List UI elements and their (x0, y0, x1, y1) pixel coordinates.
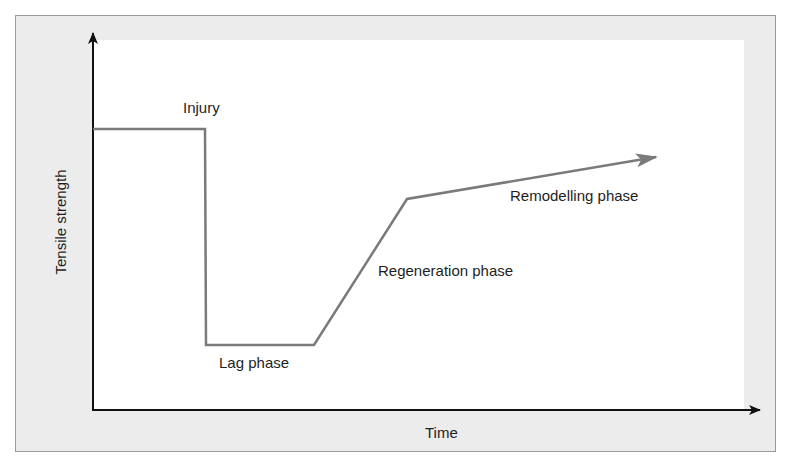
lag-phase-label: Lag phase (219, 355, 289, 370)
diagram-canvas (0, 0, 791, 476)
remodelling-phase-label: Remodelling phase (510, 188, 638, 203)
y-axis-label: Tensile strength (53, 169, 68, 274)
injury-label: Injury (183, 100, 220, 115)
regeneration-phase-label: Regeneration phase (378, 263, 513, 278)
x-axis-label: Time (425, 425, 458, 440)
tensile-strength-curve (93, 129, 656, 345)
